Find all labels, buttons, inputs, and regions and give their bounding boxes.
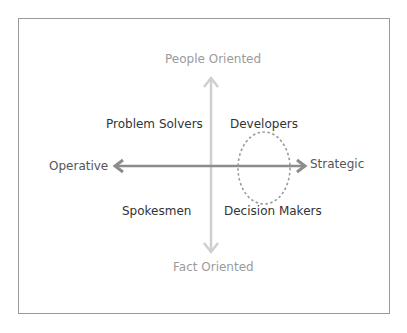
quadrant-label-developers: Developers: [230, 117, 298, 131]
quadrant-label-spokesmen: Spokesmen: [122, 204, 191, 218]
axis-label-operative: Operative: [49, 159, 108, 173]
highlight-ellipse: [238, 132, 290, 204]
quadrant-label-decision-makers: Decision Makers: [224, 204, 322, 218]
axis-label-people-oriented: People Oriented: [165, 52, 261, 66]
axis-label-strategic: Strategic: [310, 157, 364, 171]
quadrant-label-problem-solvers: Problem Solvers: [106, 117, 203, 131]
axis-label-fact-oriented: Fact Oriented: [173, 260, 254, 274]
